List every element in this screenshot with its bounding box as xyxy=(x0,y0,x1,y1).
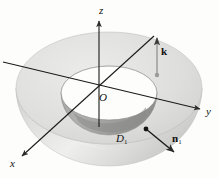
origin-label: O xyxy=(99,92,107,103)
vector-n1-label: n1 xyxy=(172,133,182,144)
geometry-figure: z y x O k D1 n1 xyxy=(0,0,219,178)
region-d1-subscript: 1 xyxy=(124,138,127,145)
figure-canvas xyxy=(0,0,219,178)
axis-z-label: z xyxy=(99,5,103,16)
axis-x-label: x xyxy=(10,158,15,169)
vector-n1-subscript: 1 xyxy=(178,138,181,145)
region-d1-letter: D xyxy=(116,132,124,144)
region-d1-label: D1 xyxy=(116,133,127,144)
vector-k-base-point xyxy=(155,73,159,77)
axis-y-label: y xyxy=(206,106,211,117)
vector-k-label: k xyxy=(161,46,167,57)
vector-n1-base-point xyxy=(144,127,149,132)
